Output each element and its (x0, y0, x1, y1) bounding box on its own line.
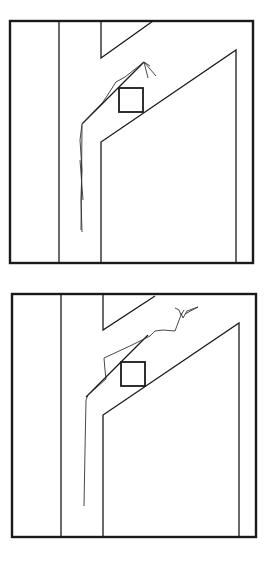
maze-wall (86, 335, 148, 397)
maze-panel-bottom (0, 0, 269, 563)
maze-wall (103, 323, 239, 537)
maze-walls (61, 294, 239, 537)
arena-frame (12, 294, 256, 537)
movement-trajectory (84, 307, 198, 506)
target-box (121, 362, 145, 386)
maze-wall (103, 294, 155, 330)
